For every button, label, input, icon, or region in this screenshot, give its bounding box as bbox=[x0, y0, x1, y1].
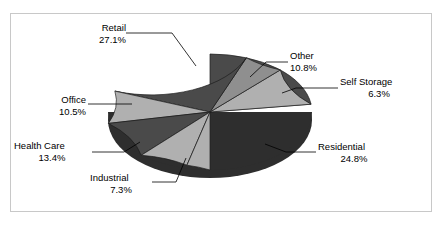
pie-label-self-storage: Self Storage 6.3% bbox=[340, 76, 418, 99]
pie-label-health-care-percent: 13.4% bbox=[14, 152, 90, 164]
pie-label-industrial: Industrial 7.3% bbox=[90, 172, 152, 195]
pie-label-office-name: Office bbox=[28, 94, 86, 106]
pie-label-industrial-percent: 7.3% bbox=[90, 184, 152, 196]
pie-label-office: Office 10.5% bbox=[28, 94, 86, 117]
pie-label-residential: Residential 24.8% bbox=[318, 141, 390, 164]
pie-label-other: Other 10.8% bbox=[290, 50, 350, 73]
pie-label-retail-percent: 27.1% bbox=[64, 34, 126, 46]
pie-label-health-care: Health Care 13.4% bbox=[14, 140, 90, 163]
pie-label-health-care-name: Health Care bbox=[14, 140, 90, 152]
pie-label-self-storage-name: Self Storage bbox=[340, 76, 418, 88]
pie-label-residential-name: Residential bbox=[318, 141, 390, 153]
pie-label-other-name: Other bbox=[290, 50, 350, 62]
pie-label-other-percent: 10.8% bbox=[290, 62, 350, 74]
pie-label-self-storage-percent: 6.3% bbox=[340, 88, 418, 100]
pie-label-retail-name: Retail bbox=[64, 22, 126, 34]
pie-label-retail: Retail 27.1% bbox=[64, 22, 126, 45]
pie-label-residential-percent: 24.8% bbox=[318, 153, 390, 165]
pie-label-office-percent: 10.5% bbox=[28, 106, 86, 118]
leader-line-retail bbox=[126, 33, 196, 66]
pie-label-industrial-name: Industrial bbox=[90, 172, 152, 184]
